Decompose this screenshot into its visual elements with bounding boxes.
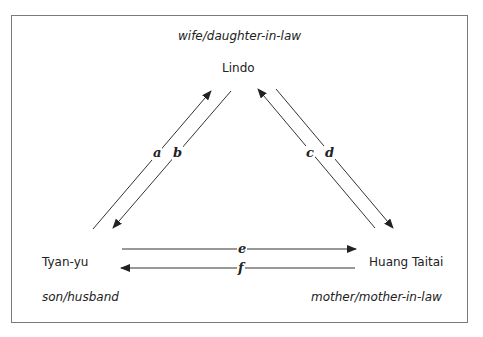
edge-a-arrow bbox=[93, 91, 211, 229]
edge-label-d: d bbox=[324, 146, 335, 160]
edge-label-a: a bbox=[152, 146, 162, 160]
edge-label-e: e bbox=[237, 242, 247, 256]
edge-label-f: f bbox=[237, 261, 245, 275]
edge-label-b: b bbox=[172, 146, 183, 160]
relationship-arrows bbox=[0, 0, 483, 337]
edge-c-arrow bbox=[258, 89, 375, 228]
edge-label-c: c bbox=[305, 146, 315, 160]
